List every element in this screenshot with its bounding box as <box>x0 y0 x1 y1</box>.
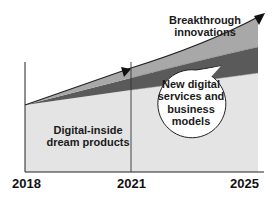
label-breakthrough-innovations: Breakthrough innovations <box>150 14 260 39</box>
label-new-digital-services: New digital services and business models <box>155 78 227 127</box>
x-tick-2018: 2018 <box>12 176 41 191</box>
label-digital-inside-products: Digital-inside dream products <box>38 124 138 149</box>
x-tick-2025: 2025 <box>230 176 259 191</box>
x-tick-2021: 2021 <box>117 176 146 191</box>
